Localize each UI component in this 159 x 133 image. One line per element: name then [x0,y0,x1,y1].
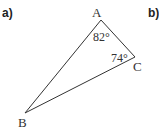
vertex-c-label: C [133,59,142,74]
triangle-abc [25,20,135,113]
vertex-a-label: A [92,5,102,20]
angle-a-label: 82° [93,30,110,44]
angle-c-label: 74° [111,51,128,65]
vertex-b-label: B [18,115,27,130]
triangle-diagram: A C B 82° 74° [0,0,159,133]
